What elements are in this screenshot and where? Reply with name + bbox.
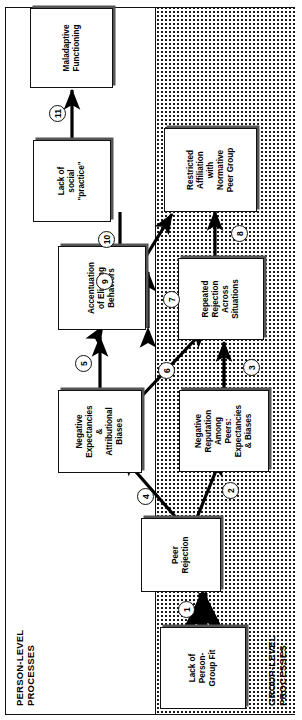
link-number-8: 8: [231, 225, 248, 242]
link-number-4: 4: [137, 488, 154, 505]
link-number-7: 7: [163, 291, 180, 308]
link-number-11: 11: [49, 105, 66, 122]
node-maladaptive-functioning[interactable]: Maladaptive Functioning: [30, 8, 113, 88]
diagram-canvas: PERSON-LEVEL PROCESSES GROUP-LEVEL PROCE…: [0, 0, 302, 720]
node-negative-reputation[interactable]: Negative Reputation Among Peers: Expecta…: [179, 390, 269, 472]
node-repeated-rejection-across-situations[interactable]: Repeated Rejection Across Situations: [178, 258, 264, 340]
node-lack-of-social-practice[interactable]: Lack of social "practice": [33, 140, 111, 222]
region-label-group-level: GROUP-LEVEL PROCESSES: [266, 635, 289, 706]
figure-stage: PERSON-LEVEL PROCESSES GROUP-LEVEL PROCE…: [0, 0, 302, 720]
link-number-9: 9: [96, 273, 113, 290]
link-number-2: 2: [222, 482, 239, 499]
node-negative-expectancies[interactable]: Negative Expectancies & Attributional Bi…: [58, 390, 142, 473]
link-number-3: 3: [243, 359, 260, 376]
region-label-person-level: PERSON-LEVEL PROCESSES: [14, 630, 37, 706]
node-restricted-affiliation[interactable]: Restricted Affiliation with Normative Pe…: [164, 128, 257, 212]
node-peer-rejection[interactable]: Peer Rejection: [141, 518, 221, 592]
link-number-5: 5: [75, 355, 92, 372]
link-number-6: 6: [158, 362, 175, 379]
link-number-1: 1: [178, 601, 195, 618]
link-number-10: 10: [98, 231, 115, 248]
node-lack-of-person-group-fit[interactable]: Lack of Person- Group Fit: [160, 627, 246, 709]
